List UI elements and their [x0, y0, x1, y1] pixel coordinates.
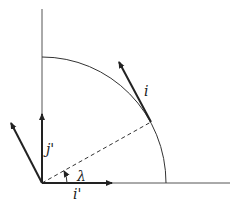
j-prime-label: j': [43, 141, 54, 157]
radius-dashed-line: [42, 122, 151, 183]
angle-arc-icon: [64, 171, 67, 183]
tangent-vector-label: i: [144, 83, 148, 99]
angle-label: λ: [76, 168, 86, 184]
i-prime-label: i': [73, 186, 81, 202]
quarter-arc: [42, 57, 166, 183]
diagram-canvas: i j' λ i': [0, 0, 237, 208]
rotated-vector-arrow: [11, 123, 42, 183]
